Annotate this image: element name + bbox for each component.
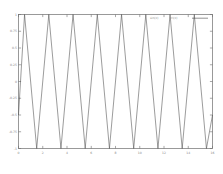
- y-tick-label: -0.25: [9, 96, 17, 100]
- y-tick-label: 0: [15, 80, 17, 84]
- x-tick-label: 16: [211, 151, 215, 155]
- x-tick-label: 10: [138, 151, 142, 155]
- x-tick-label: 14: [186, 151, 190, 155]
- y-tick-label: -1: [14, 147, 17, 151]
- y-tick-label: -0.75: [9, 130, 17, 134]
- x-tick-label: 0: [18, 151, 20, 155]
- x-tick-label: 6: [90, 151, 92, 155]
- x-tick-label: 8: [115, 151, 117, 155]
- y-tick-label: 1: [15, 13, 17, 17]
- y-tick-label: 0.75: [10, 29, 17, 33]
- x-tick-label: 12: [162, 151, 166, 155]
- legend-entry-left-label: sin(x): [150, 16, 158, 20]
- legend-entry-right-label: tri(x): [170, 16, 177, 20]
- y-tick-label: 0.5: [12, 46, 17, 50]
- y-tick-label: -0.5: [11, 113, 17, 117]
- chart-figure: 0246810121416 -1-0.75-0.5-0.2500.250.50.…: [0, 0, 223, 174]
- chart-canvas: 0246810121416 -1-0.75-0.5-0.2500.250.50.…: [0, 0, 223, 174]
- x-tick-label: 4: [66, 151, 68, 155]
- y-tick-label: 0.25: [10, 63, 17, 67]
- canvas-background: [0, 0, 223, 174]
- x-tick-label: 2: [42, 151, 44, 155]
